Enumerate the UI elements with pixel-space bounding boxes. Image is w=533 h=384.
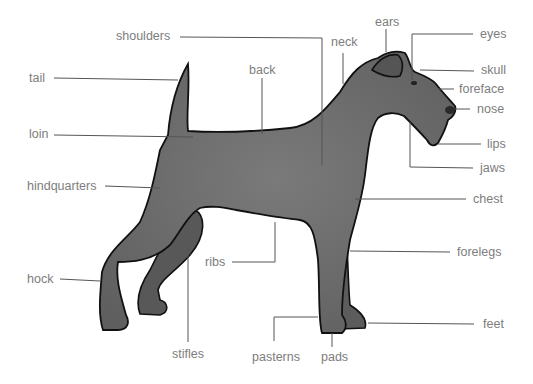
- label-hock: hock: [27, 272, 53, 286]
- leader-forelegs: [350, 251, 450, 252]
- leader-hock: [60, 279, 100, 281]
- label-chest: chest: [473, 192, 503, 206]
- label-feet: feet: [483, 317, 504, 331]
- leader-pasterns: [274, 317, 318, 341]
- label-back: back: [249, 63, 275, 77]
- label-foreface: foreface: [459, 82, 504, 96]
- leader-tail: [54, 78, 178, 80]
- label-skull: skull: [481, 63, 506, 77]
- label-nose: nose: [477, 102, 504, 116]
- leader-skull: [420, 70, 474, 71]
- label-loin: loin: [29, 127, 48, 141]
- leader-ribs: [232, 222, 275, 262]
- label-stifles: stifles: [172, 347, 204, 361]
- label-forelegs: forelegs: [457, 245, 501, 259]
- label-hindquarters: hindquarters: [27, 179, 97, 193]
- label-pads: pads: [321, 350, 348, 364]
- label-lips: lips: [487, 137, 506, 151]
- label-ribs: ribs: [205, 255, 225, 269]
- label-shoulders: shoulders: [116, 29, 170, 43]
- nose-tip: [445, 106, 455, 114]
- label-ears: ears: [375, 15, 399, 29]
- label-eyes: eyes: [480, 27, 506, 41]
- label-pasterns: pasterns: [252, 350, 300, 364]
- leader-eyes: [412, 34, 473, 80]
- leader-feet: [368, 323, 474, 324]
- label-tail: tail: [29, 71, 45, 85]
- eye: [411, 81, 417, 85]
- label-jaws: jaws: [480, 161, 505, 175]
- label-neck: neck: [331, 35, 357, 49]
